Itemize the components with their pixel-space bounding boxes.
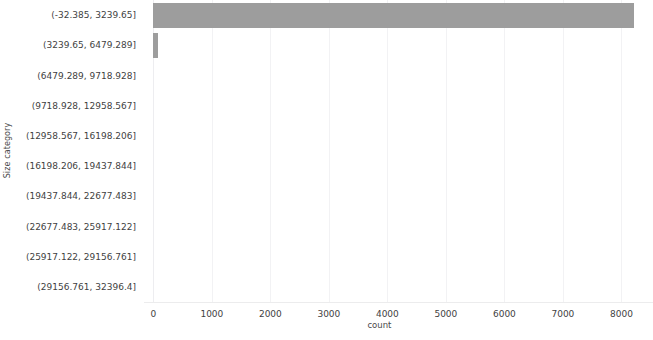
y-tick-label: (3239.65, 6479.289] bbox=[43, 39, 136, 51]
y-tick-label: (6479.289, 9718.928] bbox=[37, 70, 136, 82]
gridline bbox=[387, 0, 388, 302]
x-tick-label: 2000 bbox=[259, 308, 282, 320]
y-tick-label: (22677.483, 25917.122] bbox=[26, 221, 136, 233]
y-tick-label: (12958.567, 16198.206] bbox=[26, 130, 136, 142]
bar bbox=[153, 33, 158, 58]
x-tick-label: 7000 bbox=[551, 308, 574, 320]
x-tick-label: 6000 bbox=[493, 308, 516, 320]
bar-chart: Size category (-32.385, 3239.65](3239.65… bbox=[0, 0, 653, 340]
x-axis-title-text: count bbox=[367, 320, 391, 330]
gridline bbox=[504, 0, 505, 302]
gridline bbox=[446, 0, 447, 302]
y-tick-label: (16198.206, 19437.844] bbox=[26, 160, 136, 172]
gridline bbox=[621, 0, 622, 302]
x-tick-label: 1000 bbox=[200, 308, 223, 320]
y-tick-labels: (-32.385, 3239.65](3239.65, 6479.289](64… bbox=[16, 0, 140, 302]
x-tick-label: 3000 bbox=[317, 308, 340, 320]
gridline bbox=[329, 0, 330, 302]
gridline bbox=[563, 0, 564, 302]
x-tick-label: 8000 bbox=[610, 308, 633, 320]
y-tick-label: (29156.761, 32396.4] bbox=[37, 281, 136, 293]
bar bbox=[153, 3, 634, 28]
x-tick-label: 4000 bbox=[376, 308, 399, 320]
y-tick-label: (-32.385, 3239.65] bbox=[51, 9, 136, 21]
x-tick-label: 5000 bbox=[434, 308, 457, 320]
gridline bbox=[270, 0, 271, 302]
gridline bbox=[212, 0, 213, 302]
y-tick-label: (19437.844, 22677.483] bbox=[26, 190, 136, 202]
y-tick-label: (25917.122, 29156.761] bbox=[26, 251, 136, 263]
y-axis-title: Size category bbox=[0, 0, 16, 300]
x-tick-labels: 010002000300040005000600070008000 bbox=[0, 303, 653, 323]
y-axis-title-text: Size category bbox=[4, 122, 13, 178]
x-tick-label: 0 bbox=[150, 308, 156, 320]
y-tick-label: (9718.928, 12958.567] bbox=[32, 100, 136, 112]
plot-area bbox=[144, 0, 653, 302]
